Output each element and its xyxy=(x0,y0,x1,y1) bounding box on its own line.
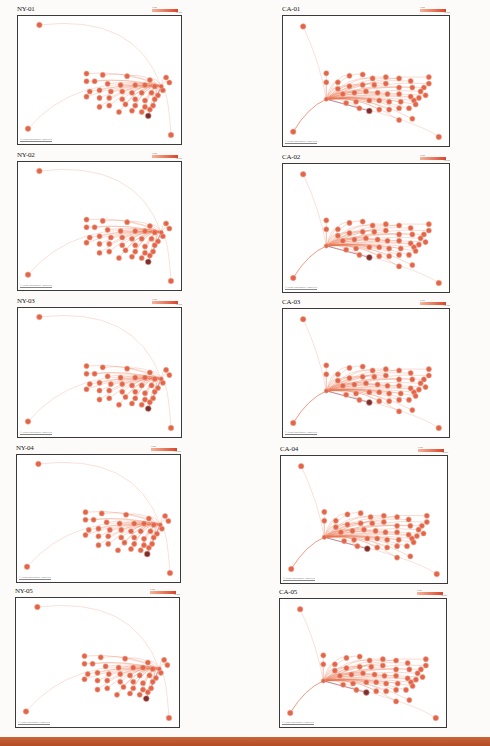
location-node xyxy=(147,253,152,258)
location-node xyxy=(354,391,359,396)
location-node xyxy=(152,84,157,89)
location-node xyxy=(96,534,101,539)
location-node xyxy=(97,234,102,239)
location-node xyxy=(395,681,400,686)
location-node xyxy=(394,699,399,704)
location-node xyxy=(394,687,399,692)
location-node xyxy=(385,383,390,388)
footer-band xyxy=(0,737,490,746)
location-node xyxy=(387,99,392,104)
flow-network xyxy=(16,598,179,727)
location-node xyxy=(413,102,418,107)
location-node xyxy=(360,364,365,369)
outlier-node xyxy=(298,463,304,469)
location-node xyxy=(357,397,362,402)
location-node xyxy=(423,385,428,390)
location-node xyxy=(321,662,326,667)
highlight-node xyxy=(366,399,372,405)
location-node xyxy=(133,375,138,380)
location-node xyxy=(410,683,415,688)
legend-label: Flows xyxy=(420,154,425,156)
location-node xyxy=(410,232,415,237)
legend-color-ramp xyxy=(417,592,443,595)
location-node xyxy=(139,109,144,114)
location-node xyxy=(92,225,97,230)
outlier-node xyxy=(25,419,31,425)
location-node xyxy=(164,221,169,226)
legend-scale: 100 200 xyxy=(174,593,181,595)
location-node xyxy=(84,71,89,76)
location-node xyxy=(418,381,423,386)
location-node xyxy=(133,97,138,102)
location-node xyxy=(410,377,415,382)
flow-edge xyxy=(323,681,435,718)
location-node xyxy=(146,516,151,521)
location-node xyxy=(107,396,112,401)
location-node xyxy=(377,254,382,259)
location-node xyxy=(108,89,113,94)
legend-color-ramp xyxy=(150,591,176,594)
location-node xyxy=(375,536,380,541)
location-node xyxy=(335,372,340,377)
map-attribution: © OSM contributors / MapTiles xyxy=(285,431,317,435)
location-node xyxy=(383,367,388,372)
location-node xyxy=(364,680,369,685)
location-node xyxy=(147,370,152,375)
location-node xyxy=(128,529,133,534)
location-node xyxy=(352,537,357,542)
location-node xyxy=(106,541,111,546)
location-node xyxy=(96,526,101,531)
location-node xyxy=(83,517,88,522)
location-node xyxy=(100,365,105,370)
legend-color-ramp xyxy=(152,9,178,12)
location-node xyxy=(167,80,172,85)
outlier-node xyxy=(24,564,30,570)
outlier-node xyxy=(168,425,174,431)
location-node xyxy=(397,383,402,388)
location-node xyxy=(85,672,90,677)
location-node xyxy=(129,401,134,406)
map-legend: Flows 100 200 xyxy=(152,152,182,160)
flow-map: © OSM contributors / MapTiles xyxy=(17,161,182,291)
location-node xyxy=(122,540,127,545)
location-node xyxy=(370,76,375,81)
location-node xyxy=(403,687,408,692)
location-node xyxy=(370,223,375,228)
location-node xyxy=(354,99,359,104)
location-node xyxy=(368,514,373,519)
location-node xyxy=(116,109,121,114)
flow-edge xyxy=(39,23,161,86)
flow-edge xyxy=(160,525,170,573)
location-node xyxy=(385,238,390,243)
location-node xyxy=(406,106,411,111)
outlier-node xyxy=(37,22,43,28)
location-node xyxy=(352,237,357,242)
location-node xyxy=(332,662,337,667)
legend-label: Flows xyxy=(420,299,425,301)
location-node xyxy=(407,667,412,672)
location-node xyxy=(415,671,420,676)
legend-scale: 100 200 xyxy=(176,303,183,305)
location-node xyxy=(344,101,349,106)
location-node xyxy=(95,678,100,683)
outlier-node xyxy=(300,24,306,30)
legend-scale: 100 200 xyxy=(444,159,451,161)
location-node xyxy=(129,108,134,113)
location-node xyxy=(387,107,392,112)
map-panel-ny-04: NY-04 Flows 100 200 © OSM contributors /… xyxy=(16,454,181,583)
flow-edge xyxy=(301,466,324,537)
location-node xyxy=(149,383,154,388)
location-node xyxy=(324,80,329,85)
location-node xyxy=(372,374,377,379)
panel-title: CA-04 xyxy=(280,445,298,453)
hub-node xyxy=(324,244,328,248)
flow-map: © OSM contributors / MapTiles xyxy=(16,454,181,583)
location-node xyxy=(145,690,150,695)
location-node xyxy=(151,535,156,540)
location-node xyxy=(408,78,413,83)
location-node xyxy=(387,246,392,251)
location-node xyxy=(138,529,143,534)
location-node xyxy=(337,673,342,678)
location-node xyxy=(107,241,112,246)
outlier-node xyxy=(297,606,303,612)
